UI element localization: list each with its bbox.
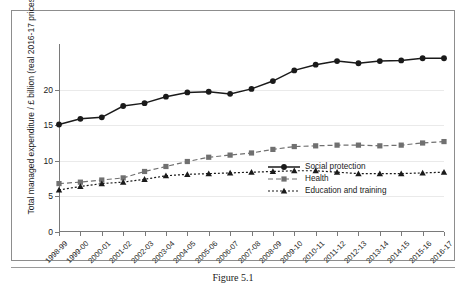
x-tick-mark: [252, 232, 253, 236]
x-tick-mark: [316, 232, 317, 236]
data-point-marker: [184, 90, 190, 96]
data-point-marker: [142, 169, 147, 174]
x-tick-mark: [145, 232, 146, 236]
data-point-marker: [228, 153, 233, 158]
legend-label: Education and training: [305, 186, 386, 196]
data-point-marker: [270, 78, 276, 84]
x-tick-mark: [423, 232, 424, 236]
x-tick-label: 2014-15: [386, 239, 412, 265]
plot-area: 05101520 1998-991999-002000-012001-02200…: [59, 54, 444, 232]
y-tick-label: 5: [48, 191, 53, 201]
data-point-marker: [420, 140, 425, 145]
legend-label: Social protection: [305, 162, 366, 172]
x-tick-mark: [209, 232, 210, 236]
x-tick-label: 2003-04: [150, 239, 176, 265]
y-tick-label: 20: [44, 85, 53, 95]
legend-item: Health: [267, 173, 386, 185]
data-point-marker: [419, 170, 425, 176]
data-point-marker: [248, 169, 254, 175]
x-tick-label: 2000-01: [86, 239, 112, 265]
x-tick-label: 1998-99: [43, 239, 69, 265]
data-point-marker: [206, 89, 212, 95]
y-tick-label: 10: [44, 156, 53, 166]
series-health: [56, 139, 446, 186]
x-tick-mark: [401, 232, 402, 236]
x-tick-label: 2002-03: [129, 239, 155, 265]
series-education-and-training: [56, 168, 447, 193]
x-tick-label: 2004-05: [172, 239, 198, 265]
data-point-marker: [292, 144, 297, 149]
data-point-marker: [356, 60, 362, 66]
data-point-marker: [291, 67, 297, 73]
x-tick-mark: [337, 232, 338, 236]
data-point-marker: [356, 143, 361, 148]
data-point-marker: [163, 94, 169, 100]
x-tick-label: 2016-17: [428, 239, 454, 265]
data-point-marker: [399, 143, 404, 148]
x-tick-label: 2012-13: [343, 239, 369, 265]
data-point-marker: [377, 143, 382, 148]
x-tick-mark: [380, 232, 381, 236]
data-point-marker: [398, 58, 404, 64]
x-tick-label: 2009-10: [279, 239, 305, 265]
caption-divider: [11, 267, 455, 268]
data-point-marker: [227, 91, 233, 97]
x-tick-label: 2010-11: [300, 239, 326, 265]
x-tick-mark: [273, 232, 274, 236]
legend-key-triangle-icon: [267, 186, 301, 196]
x-tick-label: 2015-16: [407, 239, 433, 265]
x-tick-label: 2007-08: [236, 239, 262, 265]
x-tick-label: 2001-02: [107, 239, 133, 265]
data-point-marker: [56, 122, 62, 128]
data-point-marker: [313, 62, 319, 68]
data-point-marker: [185, 159, 190, 164]
chart-frame: Total managed expenditure / £ billion (r…: [11, 10, 455, 261]
data-point-marker: [441, 139, 446, 144]
series-social-protection: [56, 55, 447, 127]
data-point-marker: [334, 58, 340, 64]
x-tick-mark: [187, 232, 188, 236]
data-point-marker: [281, 176, 286, 181]
data-point-marker: [313, 143, 318, 148]
chart-legend: Social protectionHealthEducation and tra…: [267, 161, 386, 197]
data-point-marker: [163, 173, 169, 179]
data-point-marker: [420, 55, 426, 61]
x-tick-mark: [166, 232, 167, 236]
data-point-marker: [249, 86, 255, 92]
data-point-marker: [184, 171, 190, 177]
data-point-marker: [56, 181, 61, 186]
x-tick-mark: [358, 232, 359, 236]
plot-inner: 05101520 1998-991999-002000-012001-02200…: [59, 54, 444, 232]
x-tick-mark: [123, 232, 124, 236]
figure-container: Total managed expenditure / £ billion (r…: [0, 0, 466, 288]
x-tick-mark: [102, 232, 103, 236]
data-point-marker: [77, 116, 83, 122]
x-tick-label: 2008-09: [257, 239, 283, 265]
data-point-marker: [120, 103, 126, 109]
legend-item: Education and training: [267, 185, 386, 197]
x-tick-mark: [59, 232, 60, 236]
data-point-marker: [99, 114, 105, 120]
data-point-marker: [206, 155, 211, 160]
data-point-marker: [142, 100, 148, 106]
legend-label: Health: [305, 174, 329, 184]
data-point-marker: [441, 55, 447, 61]
x-tick-mark: [444, 232, 445, 236]
data-point-marker: [334, 143, 339, 148]
y-tick-label: 0: [48, 227, 53, 237]
data-point-marker: [281, 164, 287, 170]
x-tick-label: 2006-07: [214, 239, 240, 265]
data-point-marker: [56, 187, 62, 193]
data-point-marker: [163, 164, 168, 169]
y-tick-label: 15: [44, 120, 53, 130]
data-point-marker: [249, 150, 254, 155]
y-axis-title: Total managed expenditure / £ billion (r…: [26, 10, 36, 215]
x-tick-mark: [80, 232, 81, 236]
x-tick-label: 2005-06: [193, 239, 219, 265]
x-tick-mark: [230, 232, 231, 236]
series-layer: [59, 54, 444, 232]
legend-key-square-icon: [267, 174, 301, 184]
legend-item: Social protection: [267, 161, 386, 173]
legend-key-circle-icon: [267, 162, 301, 172]
data-point-marker: [377, 58, 383, 64]
